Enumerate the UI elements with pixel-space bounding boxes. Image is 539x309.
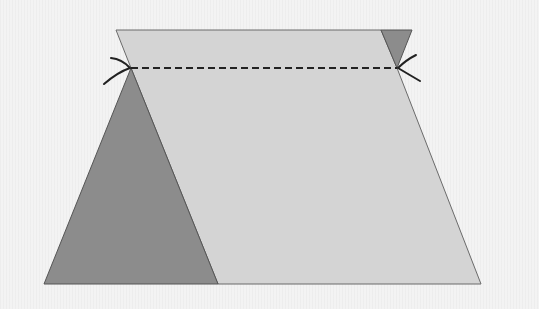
trapezoid-dissection-diagram: [0, 0, 539, 309]
right-arc-mark-icon: [398, 55, 420, 81]
diagram-canvas: [0, 0, 539, 309]
